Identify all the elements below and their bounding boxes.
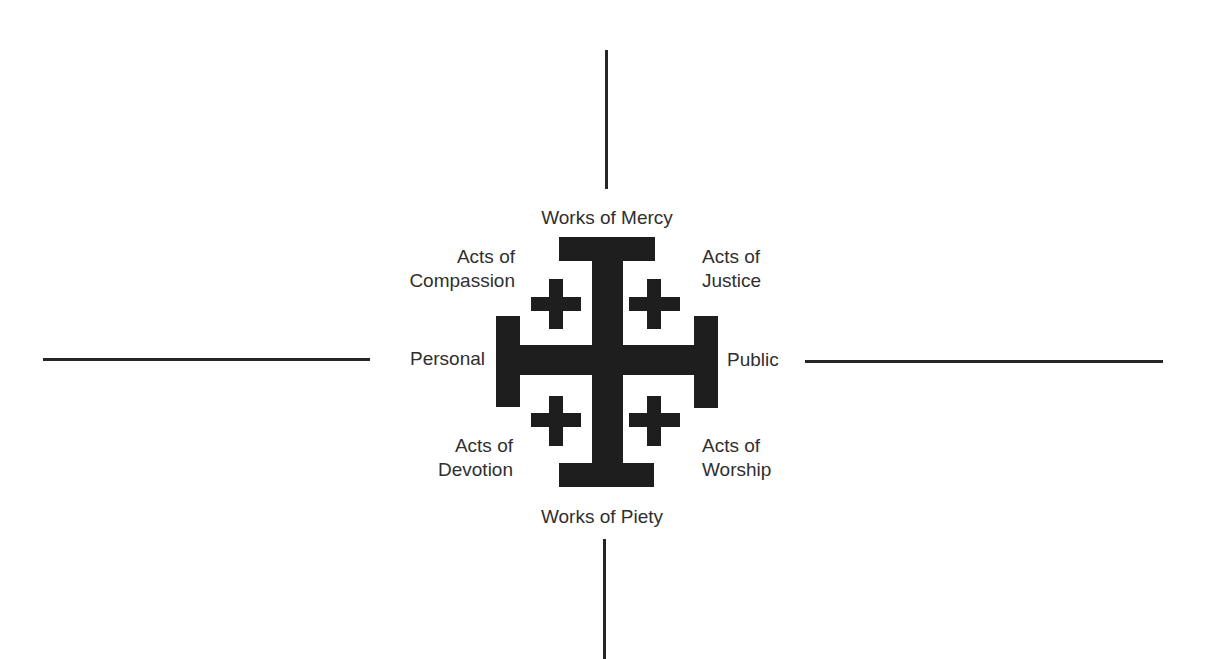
- label-acts-of-worship: Acts of Worship: [702, 434, 852, 482]
- label-acts-of-justice-line2: Justice: [702, 269, 852, 293]
- label-public: Public: [727, 349, 827, 371]
- label-acts-of-compassion: Acts of Compassion: [365, 245, 515, 293]
- label-acts-of-compassion-line2: Compassion: [365, 269, 515, 293]
- label-acts-of-worship-line1: Acts of: [702, 434, 852, 458]
- label-acts-of-justice: Acts of Justice: [702, 245, 852, 293]
- label-personal: Personal: [365, 348, 485, 370]
- label-acts-of-devotion-line2: Devotion: [365, 458, 513, 482]
- label-acts-of-devotion: Acts of Devotion: [365, 434, 513, 482]
- label-works-of-piety: Works of Piety: [512, 506, 692, 528]
- label-acts-of-compassion-line1: Acts of: [365, 245, 515, 269]
- label-acts-of-justice-line1: Acts of: [702, 245, 852, 269]
- label-works-of-mercy: Works of Mercy: [517, 207, 697, 229]
- label-acts-of-devotion-line1: Acts of: [365, 434, 513, 458]
- label-acts-of-worship-line2: Worship: [702, 458, 852, 482]
